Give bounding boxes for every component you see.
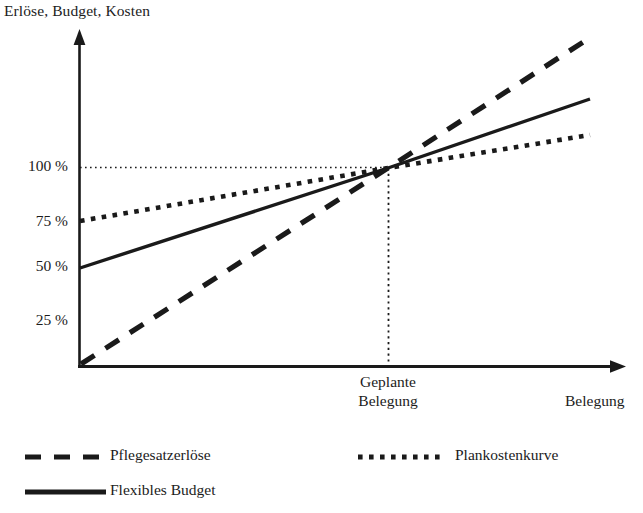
chart-plot-area	[0, 0, 643, 513]
y-tick-label-50: 50 %	[0, 258, 68, 274]
x-axis	[78, 360, 626, 372]
series-line-pflegesatzerloese	[81, 37, 591, 364]
planned-occupancy-label-line1: Geplante	[313, 374, 463, 390]
y-axis-title: Erlöse, Budget, Kosten	[4, 3, 150, 19]
y-tick-label-100: 100 %	[0, 158, 68, 174]
y-tick-label-75: 75 %	[0, 213, 68, 229]
legend-label-plankostenkurve: Plankostenkurve	[455, 447, 558, 463]
y-axis	[74, 29, 86, 368]
x-axis-title: Belegung	[565, 393, 624, 409]
planned-occupancy-label-line2: Belegung	[313, 393, 463, 409]
series-line-plankostenkurve	[80, 135, 590, 221]
legend-label-pflegesatzerloese: Pflegesatzerlöse	[110, 447, 211, 463]
chart-figure: Erlöse, Budget, Kosten 100 % 75 % 50 % 2…	[0, 0, 643, 513]
legend-label-flexibles-budget: Flexibles Budget	[110, 482, 215, 498]
series-line-flexibles-budget	[80, 99, 590, 268]
y-tick-label-25: 25 %	[0, 312, 68, 328]
